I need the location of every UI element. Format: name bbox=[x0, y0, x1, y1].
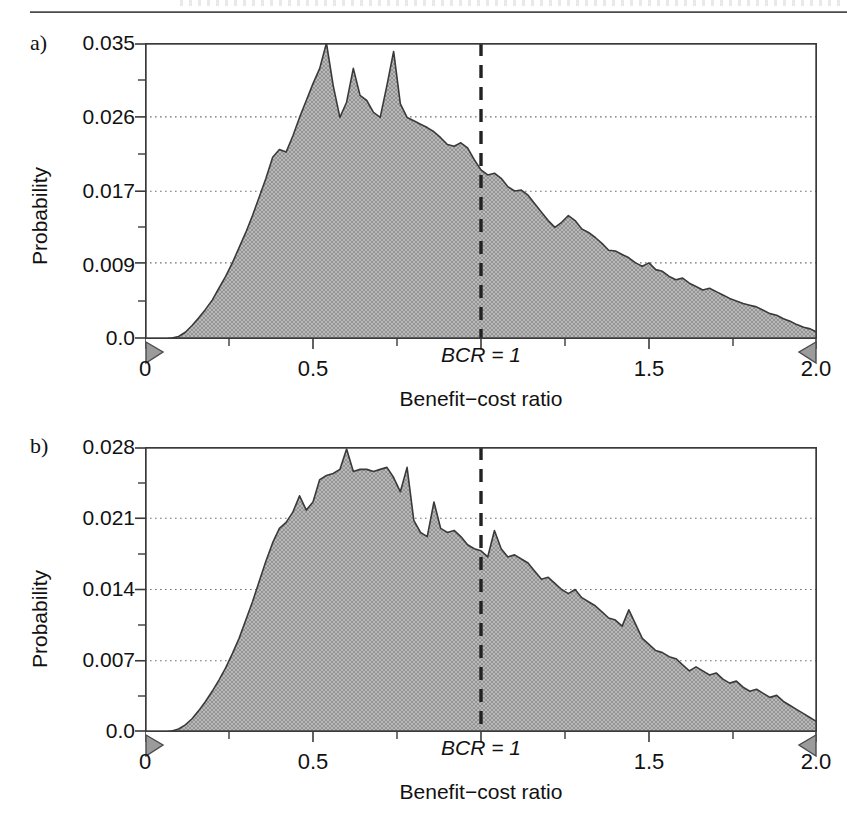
panel-a-xtick-1: 0.5 bbox=[283, 356, 343, 382]
panel-b-xtick-0: 0 bbox=[115, 749, 175, 775]
panel-a-ytick-3: 0.026 bbox=[0, 105, 135, 129]
panel-b-bcr-label: BCR = 1 bbox=[411, 736, 551, 760]
panel-b-yaxis-ticks bbox=[135, 447, 146, 732]
panel-a-xtick-3: 2.0 bbox=[786, 356, 846, 382]
panel-b-xlabel: Benefit−cost ratio bbox=[281, 780, 681, 804]
panel-a-xlabel: Benefit−cost ratio bbox=[281, 387, 681, 411]
panel-b-xtick-3: 2.0 bbox=[786, 749, 846, 775]
panel-a-plot bbox=[145, 43, 817, 339]
panel-b-ytick-3: 0.021 bbox=[0, 506, 135, 530]
panel-a-bcr-label: BCR = 1 bbox=[411, 343, 551, 367]
panel-b-plot bbox=[145, 447, 817, 732]
panel-b-xtick-1: 0.5 bbox=[283, 749, 343, 775]
panel-a: a) Probability 0.035 0.026 0.017 0.009 0… bbox=[0, 0, 847, 415]
panel-a-ytick-2: 0.017 bbox=[0, 179, 135, 203]
panel-b-ytick-4: 0.028 bbox=[0, 435, 135, 459]
panel-b-xtick-2: 1.5 bbox=[619, 749, 679, 775]
panel-a-yaxis-ticks bbox=[135, 43, 146, 339]
panel-b-ytick-2: 0.014 bbox=[0, 577, 135, 601]
panel-b-ytick-0: 0.0 bbox=[0, 719, 135, 743]
panel-a-ytick-0: 0.0 bbox=[0, 326, 135, 350]
panel-a-xtick-0: 0 bbox=[115, 356, 175, 382]
panel-a-xtick-2: 1.5 bbox=[619, 356, 679, 382]
panel-a-ytick-1: 0.009 bbox=[0, 253, 135, 277]
panel-b-ytick-1: 0.007 bbox=[0, 648, 135, 672]
panel-b: b) Probability 0.028 0.021 0.014 0.007 0… bbox=[0, 415, 847, 835]
figure-container: a) Probability 0.035 0.026 0.017 0.009 0… bbox=[0, 0, 847, 835]
panel-a-ytick-4: 0.035 bbox=[0, 31, 135, 55]
